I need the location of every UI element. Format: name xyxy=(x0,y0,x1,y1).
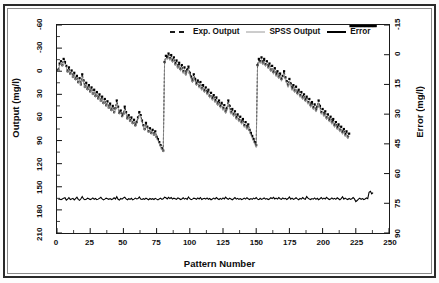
x-tick-label: 175 xyxy=(277,239,303,247)
y-tick-label-left: 60 xyxy=(36,106,46,128)
y-tick-label-right: 45 xyxy=(394,133,404,155)
y-tick-label-right: 15 xyxy=(394,73,404,95)
y-tick-label-left: 180 xyxy=(36,200,46,222)
y-tick-label-right: 0 xyxy=(394,43,404,65)
x-tick-label: 25 xyxy=(76,239,102,247)
x-tick-label: 250 xyxy=(377,239,403,247)
y-axis-title-left: Output (mg/l) xyxy=(10,78,21,138)
data-series-group xyxy=(57,25,377,202)
x-tick-label: 150 xyxy=(243,239,269,247)
plot-area xyxy=(56,24,390,234)
plot-canvas xyxy=(57,25,389,233)
legend-key-thick-line-icon xyxy=(327,28,347,36)
x-tick-label: 125 xyxy=(210,239,236,247)
legend-label-spss-output: SPSS Output xyxy=(269,27,320,36)
chart-figure: Output (mg/l) Error (mg/l) Pattern Numbe… xyxy=(0,0,439,283)
y-tick-label-left: 120 xyxy=(36,153,46,175)
y-tick-label-right: 60 xyxy=(394,163,404,185)
legend-key-thin-line-icon xyxy=(246,28,266,36)
legend-item-error: Error xyxy=(327,27,370,36)
legend-key-dashed-icon xyxy=(170,28,190,36)
x-tick-label: 50 xyxy=(110,239,136,247)
y-tick-label-left: 150 xyxy=(36,176,46,198)
y-tick-label-right: -15 xyxy=(394,13,404,35)
x-tick-label: 0 xyxy=(43,239,69,247)
legend-label-error: Error xyxy=(350,27,370,36)
y-axis-title-right: Error (mg/l) xyxy=(414,86,425,138)
y-tick-label-left: 30 xyxy=(36,83,46,105)
y-tick-label-left: 0 xyxy=(36,60,46,82)
x-tick-label: 225 xyxy=(344,239,370,247)
y-tick-label-right: 30 xyxy=(394,103,404,125)
legend-item-exp-output: Exp. Output xyxy=(170,27,239,36)
y-tick-label-left: -60 xyxy=(36,13,46,35)
x-axis-title: Pattern Number xyxy=(0,258,439,269)
y-tick-label-left: -30 xyxy=(36,36,46,58)
legend-item-spss-output: SPSS Output xyxy=(246,27,320,36)
x-tick-label: 100 xyxy=(177,239,203,247)
y-tick-label-right: 75 xyxy=(394,193,404,215)
chart-legend: Exp. Output SPSS Output Error xyxy=(170,27,370,36)
legend-label-exp-output: Exp. Output xyxy=(193,27,239,36)
y-tick-label-left: 90 xyxy=(36,130,46,152)
x-tick-label: 75 xyxy=(143,239,169,247)
x-tick-label: 200 xyxy=(310,239,336,247)
